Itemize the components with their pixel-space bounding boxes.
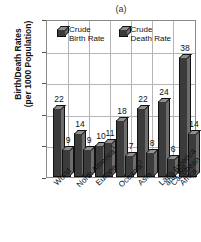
bar-value-world-birth: 22 bbox=[49, 95, 69, 104]
y-tickmark-0 bbox=[42, 178, 46, 179]
chart-legend: Crude Birth Rate Crude Death Rate bbox=[57, 25, 171, 43]
bar-value-oc-birth: 18 bbox=[112, 107, 132, 116]
legend-label-birth-line1: Crude bbox=[69, 25, 105, 34]
legend-label-death-line1: Crude bbox=[131, 25, 171, 34]
y-axis-label: Birth/Death Rates (per 1000 Population) bbox=[13, 0, 37, 138]
bar-value-la-birth: 24 bbox=[154, 88, 174, 97]
bar-value-as-birth: 22 bbox=[133, 95, 153, 104]
bar-latin-america-birth: 24 bbox=[158, 101, 167, 177]
y-axis-label-line2: (per 1000 Population) bbox=[23, 0, 33, 138]
bar-chart: (a) Birth/Death Rates (per 1000 Populati… bbox=[0, 0, 201, 242]
bar-value-af-death: 14 bbox=[184, 120, 201, 129]
legend-label-death-line2: Death Rate bbox=[131, 34, 171, 43]
y-axis-label-line1: Birth/Death Rates bbox=[13, 0, 23, 138]
legend-item-crude-death-rate: Crude Death Rate bbox=[119, 25, 171, 43]
plot-area: 22 9 14 9 10 11 bbox=[46, 20, 196, 178]
legend-item-crude-birth-rate: Crude Birth Rate bbox=[57, 25, 105, 43]
bar-value-na-birth: 14 bbox=[70, 120, 90, 129]
legend-label-birth: Crude Birth Rate bbox=[69, 25, 105, 43]
legend-swatch-icon bbox=[57, 29, 66, 37]
legend-swatch-icon bbox=[119, 29, 128, 37]
legend-label-death: Crude Death Rate bbox=[131, 25, 171, 43]
chart-title: (a) bbox=[46, 4, 196, 14]
bar-value-af-birth: 38 bbox=[175, 44, 195, 53]
legend-label-birth-line2: Birth Rate bbox=[69, 34, 105, 43]
